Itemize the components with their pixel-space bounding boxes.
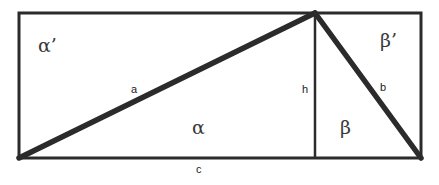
side-a-line (19, 13, 315, 158)
label-alpha-prime: α’ (38, 34, 57, 56)
label-height-h: h (302, 83, 308, 95)
outer-rectangle (19, 13, 421, 158)
label-alpha: α (192, 116, 205, 138)
label-side-a: a (131, 83, 138, 95)
triangle-rectangle-diagram: α’ a α c h β’ b β (0, 0, 439, 185)
label-side-b: b (380, 81, 386, 93)
label-beta-prime: β’ (380, 29, 397, 51)
side-b-line (315, 13, 421, 158)
label-beta: β (340, 116, 351, 138)
label-side-c: c (196, 163, 202, 175)
